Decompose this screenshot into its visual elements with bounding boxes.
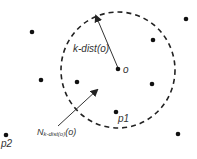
point	[151, 38, 156, 43]
point	[150, 82, 155, 87]
point	[184, 17, 189, 22]
point	[176, 132, 181, 137]
k-distance-diagram: o p1 p2 k-dist(o) Nk-dist(o)(o)	[0, 0, 197, 159]
label-p1: p1	[117, 113, 129, 124]
k-dist-arrow	[96, 16, 118, 68]
point-o	[116, 67, 121, 72]
point	[39, 78, 44, 83]
label-k-dist: k-dist(o)	[73, 43, 109, 54]
point	[30, 30, 35, 35]
point	[75, 80, 80, 85]
point-p2	[4, 133, 9, 138]
label-o: o	[123, 64, 129, 75]
label-neighborhood: Nk-dist(o)(o)	[37, 127, 76, 137]
data-points	[4, 17, 189, 138]
label-p2: p2	[0, 138, 13, 149]
